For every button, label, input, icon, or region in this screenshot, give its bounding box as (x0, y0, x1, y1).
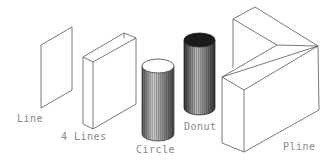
line-object (41, 27, 72, 108)
label-line: Line (17, 113, 43, 124)
circle-cylinder-object (142, 59, 174, 141)
donut-cylinder-object (184, 33, 215, 115)
four-lines-object (83, 33, 136, 129)
isometric-diagram: Line 4 Lines Circle Donut Pline (0, 0, 334, 160)
label-pline: Pline (283, 141, 316, 152)
label-circle: Circle (136, 144, 175, 155)
label-four-lines: 4 Lines (61, 131, 107, 142)
pline-object (222, 7, 319, 152)
label-donut: Donut (184, 121, 217, 132)
